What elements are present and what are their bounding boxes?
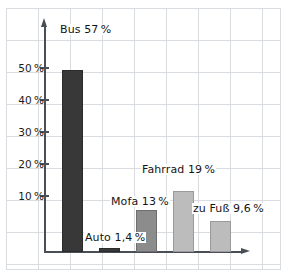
- y-tick-label-50: 50 %: [18, 63, 44, 74]
- bar-chart: 50 % 40 % 30 % 20 % 10 % Bus 57 % Auto 1…: [0, 0, 287, 274]
- y-axis-arrow-icon: [41, 18, 47, 27]
- y-tick-label-30: 30 %: [18, 127, 44, 138]
- y-axis-line: [44, 26, 46, 253]
- bar-label-fahrrad: Fahrrad 19 %: [141, 164, 216, 175]
- y-tick-label-20: 20 %: [18, 159, 44, 170]
- plot-area: 50 % 40 % 30 % 20 % 10 % Bus 57 % Auto 1…: [0, 0, 287, 274]
- bar-fahrrad: [173, 191, 194, 252]
- bar-label-auto: Auto 1,4 %: [84, 232, 146, 243]
- bar-label-mofa: Mofa 13 %: [110, 196, 170, 207]
- y-tick-label-40: 40 %: [18, 95, 44, 106]
- x-axis-arrow-icon: [241, 248, 250, 254]
- y-tick-label-10: 10 %: [18, 191, 44, 202]
- bar-label-zu-fuss: zu Fuß 9,6 %: [192, 203, 265, 214]
- bar-auto: [99, 248, 120, 253]
- bar-label-bus: Bus 57 %: [59, 24, 112, 35]
- bar-bus: [62, 70, 83, 252]
- bar-zu-fuss: [210, 221, 231, 252]
